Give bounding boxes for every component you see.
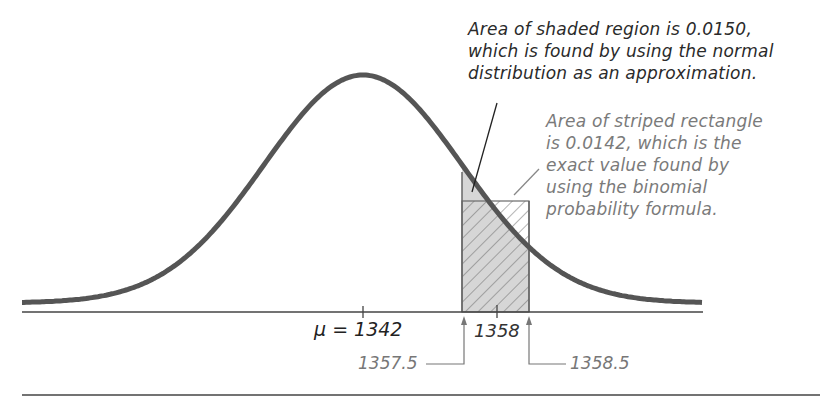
binomial-exact-annotation: Area of striped rectangle is 0.0142, whi… [546,110,763,220]
upper-bound-label: 1358.5 [570,353,629,373]
normal-approximation-annotation: Area of shaded region is 0.0150, which i… [468,18,774,84]
annotation-line: distribution as an approximation. [468,62,774,84]
annotation-line: exact value found by [546,154,763,176]
lower-bound-arrowhead [461,316,467,325]
annotation-line: Area of shaded region is 0.0150, [468,18,774,40]
lower-bound-label: 1357.5 [358,353,417,373]
normal-annotation-pointer [472,103,497,192]
annotation-line: Area of striped rectangle [546,110,763,132]
annotation-line: which is found by using the normal [468,40,774,62]
annotation-line: using the binomial [546,176,763,198]
lower-bound-leader [426,320,464,364]
upper-bound-leader [529,320,566,364]
annotation-line: probability formula. [546,198,763,220]
x-value-label: 1358 [474,320,520,341]
mean-label: μ = 1342 [314,318,402,340]
annotation-line: is 0.0142, which is the [546,132,763,154]
striped-rectangle [462,201,529,312]
upper-bound-arrowhead [526,316,532,325]
binomial-annotation-pointer [514,169,539,195]
